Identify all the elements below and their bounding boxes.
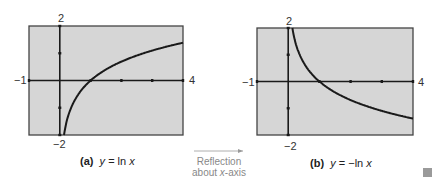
caption-b-eq: = −ln [336,157,367,169]
x-max-label-b: 4 [418,76,424,88]
transition-line1: Reflection [189,156,249,167]
end-of-example-marker [423,168,432,177]
caption-a-var-x: x [129,155,135,167]
transition-note: Reflection about x-axis [189,156,249,178]
caption-a: (a) y = ln x [80,155,135,167]
y-min-label-b: −2 [284,140,297,152]
x-max-label-a: 4 [189,74,195,86]
y-min-label-a: −2 [53,138,66,150]
y-max-label-b: 2 [286,15,292,27]
caption-b: (b) y = −ln x [310,157,372,169]
caption-b-var-x: x [366,157,372,169]
plot-panel-b: 2 −2 −1 4 [242,15,424,152]
y-max-label-a: 2 [58,12,64,24]
x-min-label-a: −1 [14,74,27,86]
caption-b-label: (b) [310,157,324,169]
caption-a-eq: = ln [105,155,129,167]
transition-line2: about x-axis [189,167,249,178]
x-min-label-b: −1 [242,76,255,88]
caption-a-label: (a) [80,155,93,167]
reflection-arrow [194,149,243,153]
plot-panel-a: 2 −2 −1 4 [14,12,195,150]
